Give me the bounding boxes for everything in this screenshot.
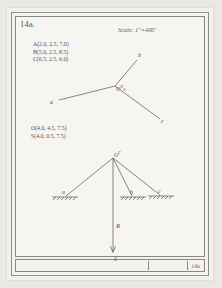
sheet-number-box: 14a — [188, 261, 203, 270]
coordinate-line-b: B(5.0, 2.5, 8.5) — [33, 49, 69, 57]
elev-label-a: a — [62, 189, 65, 195]
plan-label-s: S — [123, 87, 126, 92]
scale-note: Scale: 1"=400' — [118, 26, 155, 33]
coordinate-line-o: O(4.0, 4.5, 7.5) — [31, 125, 67, 133]
figure-number-label: 14a. — [20, 19, 35, 29]
coordinate-list-os: O(4.0, 4.5, 7.5) S(4.0, 0.5, 7.5) — [31, 125, 67, 140]
coordinate-line-s: S(4.0, 0.5, 7.5) — [31, 133, 67, 141]
elev-label-c: c — [158, 188, 161, 194]
title-block-strip: 14a — [15, 259, 205, 272]
coordinate-list-abc: A(2.0, 2.5, 7.0) B(5.0, 2.5, 8.5) C(6.5,… — [33, 41, 69, 64]
load-label-r: R — [116, 222, 120, 229]
elev-label-o: OF — [114, 150, 121, 158]
plan-label-c: c — [161, 118, 164, 124]
coordinate-line-a: A(2.0, 2.5, 7.0) — [33, 41, 69, 49]
elev-label-b: b — [130, 189, 133, 195]
title-block-cell-left — [17, 261, 149, 270]
coordinate-line-c: C(6.5, 2.5, 6.0) — [33, 56, 69, 64]
plan-label-a: a — [50, 99, 53, 105]
elev-label-o-superscript: F — [118, 150, 120, 155]
load-point-label-s: S — [114, 256, 117, 262]
plan-label-b: b — [138, 52, 141, 58]
drawing-sheet-canvas: 14a 14a. Scale: 1"=400' A(2.0, 2.5, 7.0)… — [0, 0, 222, 288]
title-block-cell-middle — [149, 261, 188, 270]
